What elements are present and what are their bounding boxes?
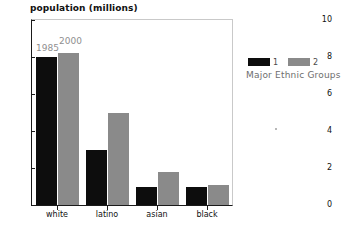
bar-black-series2 — [208, 185, 229, 205]
bar-latino-series2 — [108, 113, 129, 206]
annotation-2000: 2000 — [59, 37, 82, 46]
legend-caption: Major Ethnic Groups — [246, 70, 341, 80]
y-tick-label: 4 — [312, 127, 332, 135]
bar-white-series2 — [58, 53, 79, 205]
bars-layer — [32, 20, 232, 205]
y-axis — [0, 0, 29, 233]
chart-title: population (millions) — [30, 3, 138, 13]
legend-swatch-2 — [288, 58, 310, 66]
bar-black-series1 — [186, 187, 207, 206]
annotation-1985: 1985 — [36, 44, 59, 53]
x-tick-mark — [107, 206, 108, 210]
stray-speck — [275, 128, 277, 130]
x-tick-label-black: black — [177, 210, 237, 219]
x-tick-mark — [207, 206, 208, 210]
x-tick-mark — [157, 206, 158, 210]
legend-swatch-1 — [248, 58, 270, 66]
bar-asian-series2 — [158, 172, 179, 205]
legend-label-2: 2 — [313, 58, 318, 67]
x-tick-mark — [57, 206, 58, 210]
y-tick-label: 10 — [312, 16, 332, 24]
legend-keys-row: 1 2 — [248, 57, 332, 68]
y-tick-label: 2 — [312, 164, 332, 172]
chart-legend: 1 2 Major Ethnic Groups — [248, 57, 332, 68]
y-tick-mark — [31, 205, 35, 206]
legend-label-1: 1 — [273, 58, 278, 67]
y-tick-label: 0 — [312, 201, 332, 209]
bar-latino-series1 — [86, 150, 107, 206]
bar-white-series1 — [36, 57, 57, 205]
y-tick-label: 6 — [312, 90, 332, 98]
bar-asian-series1 — [136, 187, 157, 206]
